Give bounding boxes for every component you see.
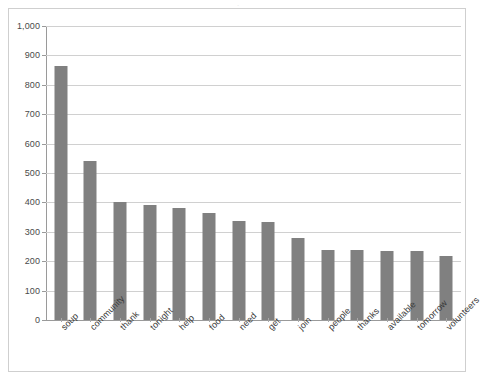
y-axis-tick-label: 1,000 [17, 21, 40, 31]
x-axis-category: tomorrow [402, 322, 432, 382]
x-axis-category: tonight [135, 322, 165, 382]
y-axis-tick-label: 400 [25, 197, 40, 207]
bar-slot [105, 26, 135, 320]
x-axis-category: food [194, 322, 224, 382]
y-axis-tick-label: 200 [25, 256, 40, 266]
x-axis-category-labels: soupcommunitythanktonighthelpfoodneedget… [46, 322, 461, 382]
y-axis-tick-label: 900 [25, 50, 40, 60]
clipped-chart-title: . [0, 0, 476, 8]
x-axis-category: soup [46, 322, 76, 382]
bar-slot [254, 26, 284, 320]
x-axis-category: get [254, 322, 284, 382]
bar-slot [402, 26, 432, 320]
y-axis-tick-0 [42, 320, 46, 321]
x-axis-category: thank [105, 322, 135, 382]
bar[interactable] [203, 213, 216, 320]
chart-frame: 01002003004005006007008009001,000 soupco… [8, 8, 466, 372]
y-axis-tick-label: 500 [25, 168, 40, 178]
bar[interactable] [84, 161, 97, 320]
bar-slot [431, 26, 461, 320]
bar-slot [135, 26, 165, 320]
bar-slot [46, 26, 76, 320]
bar[interactable] [380, 251, 393, 320]
y-axis-tick-label: 0 [35, 315, 40, 325]
x-axis-category: volunteers [431, 322, 461, 382]
y-axis-tick-label: 600 [25, 139, 40, 149]
bar[interactable] [232, 221, 245, 320]
bar-slot [372, 26, 402, 320]
bar[interactable] [262, 222, 275, 320]
bar-slot [224, 26, 254, 320]
bar-slot [342, 26, 372, 320]
x-axis-category: available [372, 322, 402, 382]
bars-layer [46, 26, 461, 320]
x-axis-category: people [313, 322, 343, 382]
plot-area: 01002003004005006007008009001,000 [46, 26, 461, 320]
bar[interactable] [321, 250, 334, 320]
bar-slot [76, 26, 106, 320]
bar[interactable] [291, 238, 304, 320]
bar[interactable] [351, 250, 364, 320]
x-axis-category: thanks [342, 322, 372, 382]
y-axis-tick-label: 100 [25, 286, 40, 296]
bar[interactable] [143, 205, 156, 320]
x-axis-category: join [283, 322, 313, 382]
y-axis-tick-label: 700 [25, 109, 40, 119]
bar-slot [194, 26, 224, 320]
bar[interactable] [173, 208, 186, 320]
bar[interactable] [54, 66, 67, 320]
y-axis-tick-label: 300 [25, 227, 40, 237]
bar-slot [313, 26, 343, 320]
x-axis-category: community [76, 322, 106, 382]
x-axis-category: help [165, 322, 195, 382]
bar-slot [165, 26, 195, 320]
y-axis-tick-label: 800 [25, 80, 40, 90]
x-axis-category: need [224, 322, 254, 382]
bar-slot [283, 26, 313, 320]
